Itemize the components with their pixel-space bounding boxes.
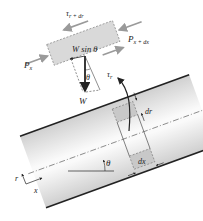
pipe-angle-label: θ [106,158,111,168]
shear-bottom-arrow [103,48,124,56]
pipe-flow-diagram: θ dr dx r x τr + dr Px + dx Px W sin θ τ… [0,0,203,221]
pressure-right-label: Px + dx [127,34,149,45]
pipe [15,73,203,210]
r-axis-arrow [22,174,26,184]
weight-angle-label: θ [86,73,90,82]
weight-label: W [79,96,88,106]
shear-top-arrow [64,21,88,30]
dr-label: dr [145,107,153,116]
shear-top-label: τr + dr [66,9,84,19]
shear-bottom-label: τr [107,70,113,80]
fluid-element [47,21,120,66]
component-dashed-line-bottom [86,90,100,92]
r-axis-label: r [15,174,19,183]
pressure-right-arrow [119,22,142,30]
dx-label: dx [138,157,146,166]
weight-component-label: W sin θ [72,44,97,54]
component-dashed-line-left [71,59,83,92]
pipe-body [20,75,203,208]
x-axis-label: x [33,186,38,195]
